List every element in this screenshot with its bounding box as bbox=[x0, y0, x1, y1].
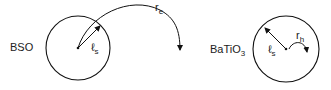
bso-re-label: re bbox=[155, 1, 163, 13]
re-subscript: e bbox=[159, 7, 163, 16]
batio-subscript: 3 bbox=[241, 49, 245, 58]
rh-subscript: h bbox=[300, 35, 304, 44]
batio3-radius-label: ℓs bbox=[268, 43, 276, 55]
bso-label: BSO bbox=[10, 41, 33, 53]
batio3-rh-label: rh bbox=[296, 29, 304, 41]
batio3-label: BaTiO3 bbox=[210, 43, 245, 55]
bso-circle-group bbox=[46, 5, 180, 80]
batio3-rh-arc-arrow bbox=[289, 43, 307, 52]
ls-subscript: s bbox=[272, 49, 276, 58]
ls-subscript: s bbox=[95, 47, 99, 56]
batio-text: BaTiO bbox=[210, 43, 241, 55]
bso-radius-label: ℓs bbox=[91, 41, 99, 53]
diagram-canvas bbox=[0, 0, 331, 90]
batio3-circle-group bbox=[253, 16, 319, 82]
